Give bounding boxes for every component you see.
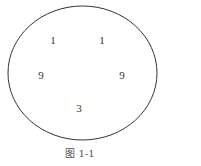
number-label: 3	[76, 103, 82, 114]
ellipse-outline	[0, 0, 201, 166]
number-label: 9	[119, 70, 125, 81]
number-label: 1	[99, 35, 105, 46]
number-label: 1	[50, 35, 56, 46]
diagram-figure: 1 1 9 9 3 图 1-1	[0, 0, 201, 166]
figure-caption: 图 1-1	[65, 145, 94, 160]
number-label: 9	[38, 70, 44, 81]
